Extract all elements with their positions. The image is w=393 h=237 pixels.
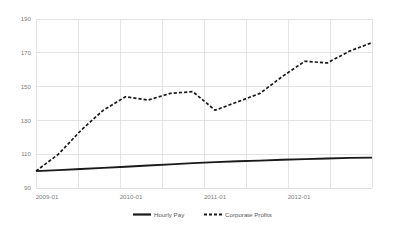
xtick-label-2011-01: 2011-01 [204, 193, 227, 200]
x-axis-tick-labels: 2009-01 2010-01 2011-01 2012-01 [36, 193, 311, 200]
line-chart: 190 170 150 130 110 90 2009-01 2010-01 2… [0, 0, 393, 237]
ytick-label-190: 190 [21, 15, 32, 22]
chart-canvas: 190 170 150 130 110 90 2009-01 2010-01 2… [0, 0, 393, 237]
legend-label-hourly-pay: Hourly Pay [154, 211, 185, 218]
xtick-label-2012-01: 2012-01 [288, 193, 311, 200]
chart-legend: Hourly Pay Corporate Profits [133, 211, 272, 218]
xtick-label-2010-01: 2010-01 [120, 193, 143, 200]
ytick-label-110: 110 [21, 150, 31, 157]
y-axis-tick-labels: 190 170 150 130 110 90 [21, 15, 32, 191]
legend-label-corporate-profits: Corporate Profits [225, 211, 272, 218]
ytick-label-170: 170 [21, 49, 32, 56]
ytick-label-90: 90 [24, 184, 31, 191]
ytick-label-130: 130 [21, 117, 32, 124]
ytick-label-150: 150 [21, 83, 32, 90]
xtick-label-2009-01: 2009-01 [36, 193, 59, 200]
